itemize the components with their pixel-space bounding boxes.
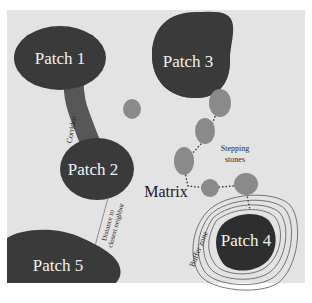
patch-4-label: Patch 4 [221,231,272,250]
stepping-stone [209,89,231,117]
stepping-stone [195,118,215,144]
patch-3-label: Patch 3 [163,52,214,71]
patch-5-label: Patch 5 [33,256,84,275]
stepping-stone [201,179,219,197]
patch-1-label: Patch 1 [35,49,86,68]
stepping-stone [234,173,258,195]
patch-2-label: Patch 2 [68,160,119,179]
matrix-label: Matrix [144,183,188,200]
landscape-connectivity-diagram: Patch 1 Corridor Patch 2 Patch 3 Steppin… [0,0,312,303]
stepping-stones-label-line1: Stepping [221,144,249,153]
stepping-stones-label-line2: stones [225,155,245,164]
stepping-stone [174,147,194,175]
stepping-stone [123,99,141,119]
